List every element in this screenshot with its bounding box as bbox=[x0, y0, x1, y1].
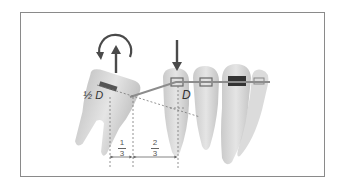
fraction-one-third: 1 3 bbox=[117, 139, 127, 158]
rotation-arrow-icon bbox=[96, 35, 131, 60]
up-arrow-icon bbox=[111, 45, 121, 73]
tilted-molar bbox=[68, 67, 143, 160]
fraction-numerator: 1 bbox=[120, 138, 124, 147]
fraction-numerator: 2 bbox=[153, 138, 157, 147]
d-label: D bbox=[182, 88, 191, 102]
fraction-two-thirds: 2 3 bbox=[150, 139, 160, 158]
down-arrow-icon bbox=[172, 40, 182, 71]
half-d-label: ½ D bbox=[83, 89, 103, 101]
fraction-denominator: 3 bbox=[153, 149, 157, 158]
orthodontic-diagram bbox=[0, 0, 347, 188]
fraction-denominator: 3 bbox=[120, 149, 124, 158]
